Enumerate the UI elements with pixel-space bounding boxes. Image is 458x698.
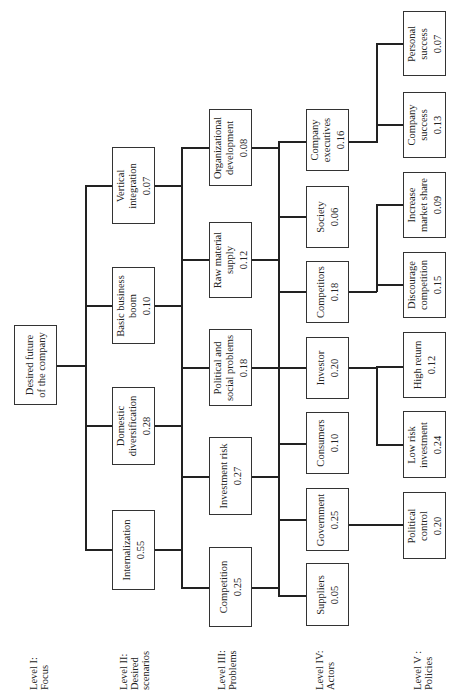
level-4-label: Level IV: Actors <box>314 650 336 690</box>
connector <box>252 587 280 589</box>
connector <box>376 43 378 143</box>
focus-label: Desired future of the company <box>24 332 48 397</box>
node-label: Company executives <box>309 118 333 162</box>
node-weight: 0.09 <box>432 178 444 232</box>
problem-node-investment-risk: Investment risk0.27 <box>209 437 252 515</box>
node-label: Raw material supply <box>212 232 236 288</box>
node-label: Personal success <box>406 25 430 61</box>
problem-node-organizational-development: Organizational development0.08 <box>209 109 252 186</box>
node-label: Increase market share <box>406 178 430 232</box>
actor-node-consumers: Consumers0.10 <box>306 412 349 474</box>
connector <box>349 524 403 526</box>
node-label: Government <box>315 493 327 546</box>
node-label: Society <box>315 201 327 233</box>
actor-node-company-executives: Company executives0.16 <box>306 109 349 171</box>
node-weight: 0.12 <box>426 341 438 390</box>
problem-node-political-social: Political and social problems0.18 <box>209 329 252 406</box>
connector <box>181 587 209 589</box>
node-label: Competitors <box>315 266 327 318</box>
connector <box>181 147 209 149</box>
node-weight: 0.20 <box>329 351 341 385</box>
node-weight: 0.55 <box>135 519 147 580</box>
connector <box>85 425 112 427</box>
connector <box>376 444 403 446</box>
connector <box>155 549 183 551</box>
level-5-label: Level V : Policies <box>412 651 434 690</box>
connector <box>376 366 378 446</box>
scenario-node-basic-business-boom: Basic business boom0.10 <box>112 267 155 344</box>
connector <box>349 291 377 293</box>
node-weight: 0.18 <box>238 334 250 400</box>
node-label: Suppliers <box>315 575 327 615</box>
scenario-node-internalization: Internalization0.55 <box>112 510 155 590</box>
node-label: High return <box>412 341 424 390</box>
node-weight: 0.08 <box>238 116 250 178</box>
connector <box>57 365 87 367</box>
node-label: Competition <box>218 561 230 614</box>
problem-node-raw-material-supply: Raw material supply0.12 <box>209 222 252 298</box>
node-weight: 0.24 <box>432 421 444 467</box>
node-weight: 0.28 <box>141 396 153 457</box>
policy-node-increase-market-share: Increase market share0.09 <box>403 172 446 238</box>
connector <box>376 204 378 292</box>
node-label: Investment risk <box>218 443 230 508</box>
connector <box>278 595 306 597</box>
node-label: Political control <box>406 508 430 543</box>
connector <box>155 185 183 187</box>
connector <box>376 124 403 126</box>
node-label: Political and social problems <box>212 334 236 400</box>
connector <box>252 147 280 149</box>
scenario-node-domestic-diversification: Domestic diversification0.28 <box>112 387 155 465</box>
connector <box>252 259 280 261</box>
connector <box>85 549 112 551</box>
node-weight: 0.15 <box>432 260 444 310</box>
policy-node-political-control: Political control0.20 <box>403 492 446 559</box>
node-weight: 0.25 <box>232 561 244 614</box>
connector <box>278 141 306 143</box>
policy-node-high-return: High return0.12 <box>403 332 446 398</box>
policy-node-discourage-competition: Discourage competition0.15 <box>403 252 446 318</box>
node-weight: 0.27 <box>232 443 244 508</box>
node-weight: 0.25 <box>329 493 341 546</box>
node-weight: 0.18 <box>329 266 341 318</box>
level-1-label: Level I: Focus <box>28 657 50 690</box>
node-label: Internalization <box>121 519 133 580</box>
node-label: Low risk investment <box>406 421 430 467</box>
actor-node-government: Government0.25 <box>306 488 349 551</box>
node-label: Investor <box>315 351 327 385</box>
connector <box>349 367 377 369</box>
policy-node-low-risk-investment: Low risk investment0.24 <box>403 411 446 478</box>
connector <box>252 476 280 478</box>
connector <box>278 291 306 293</box>
node-weight: 0.20 <box>432 508 444 543</box>
connector <box>278 141 280 597</box>
connector <box>181 476 209 478</box>
node-label: Consumers <box>315 419 327 466</box>
node-weight: 0.05 <box>329 575 341 615</box>
connector <box>252 367 280 369</box>
focus-node: Desired future of the company <box>14 325 57 405</box>
node-label: Vertical integration <box>115 163 139 209</box>
actor-node-competitors: Competitors0.18 <box>306 261 349 323</box>
actor-node-suppliers: Suppliers0.05 <box>306 563 349 626</box>
problem-node-competition: Competition0.25 <box>209 547 252 627</box>
scenario-node-vertical-integration: Vertical integration0.07 <box>112 147 155 224</box>
node-weight: 0.16 <box>335 118 347 162</box>
node-weight: 0.07 <box>141 163 153 209</box>
policy-node-personal-success: Personal success0.07 <box>403 11 446 76</box>
connector <box>85 185 87 550</box>
node-weight: 0.10 <box>141 275 153 337</box>
level-2-label: Level II: Desired scenarios <box>118 651 151 690</box>
node-label: Company success <box>406 105 430 146</box>
node-weight: 0.06 <box>329 201 341 233</box>
actor-node-society: Society0.06 <box>306 186 349 248</box>
connector <box>278 519 306 521</box>
level-3-label: Level III: Problems <box>216 650 238 690</box>
connector <box>85 185 112 187</box>
actor-node-investor: Investor0.20 <box>306 337 349 399</box>
connector <box>376 43 403 45</box>
connector <box>181 259 209 261</box>
connector <box>155 305 183 307</box>
node-weight: 0.07 <box>432 25 444 61</box>
connector <box>349 141 377 143</box>
